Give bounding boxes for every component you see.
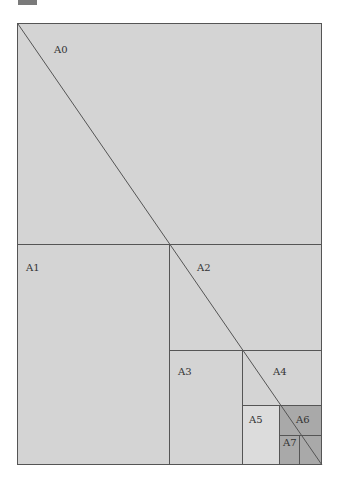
label-a3: A3 [178, 366, 192, 377]
label-a6: A6 [296, 414, 310, 425]
label-a2: A2 [197, 262, 211, 273]
division-lines [0, 0, 337, 490]
label-a0: A0 [54, 44, 68, 55]
label-a4: A4 [273, 366, 287, 377]
label-a5: A5 [249, 414, 263, 425]
label-a1: A1 [26, 262, 40, 273]
label-a7: A7 [283, 437, 297, 448]
